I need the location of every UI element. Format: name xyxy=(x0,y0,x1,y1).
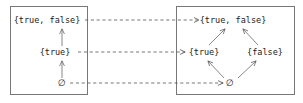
right-node-empty-set-label: ∅ xyxy=(225,79,235,88)
edge-right-empty-to-false xyxy=(238,61,256,78)
lattice-mapping-figure: {true, false} {true} ∅ {true, false} {tr… xyxy=(0,0,303,103)
edge-right-true-to-topset xyxy=(209,29,225,45)
edge-right-false-to-topset xyxy=(243,29,258,45)
left-node-top-label: {true, false} xyxy=(13,16,82,25)
right-node-false-label: {false} xyxy=(246,48,284,57)
edge-right-empty-to-true xyxy=(208,61,224,78)
left-node-empty-set-label: ∅ xyxy=(57,79,67,88)
right-node-true-label: {true} xyxy=(188,48,221,57)
right-node-top-label: {true, false} xyxy=(199,16,268,25)
left-node-mid-label: {true} xyxy=(39,48,72,57)
